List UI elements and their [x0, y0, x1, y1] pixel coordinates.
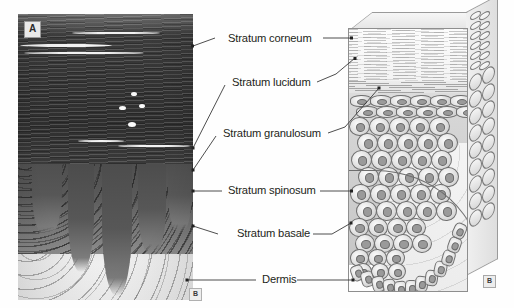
cell-nucleus: [437, 99, 447, 105]
leader-granulosum-left: [193, 136, 216, 170]
cell-nucleus: [356, 123, 366, 132]
block-side-cells: [466, 0, 497, 13]
cell-nucleus: [396, 123, 406, 132]
epidermis-block-diagram: B: [348, 12, 498, 290]
cell-nucleus: [358, 156, 368, 166]
label-dermis: Dermis: [262, 273, 297, 285]
cell-nucleus: [436, 123, 446, 132]
cell-nucleus: [383, 139, 393, 149]
panel-b-label: B: [189, 288, 202, 301]
micrograph-vignette: [18, 14, 193, 300]
cell-nucleus: [377, 99, 387, 105]
cell-nucleus: [443, 110, 453, 116]
layer-stratum-corneum: [349, 29, 467, 85]
block-front-face: [348, 28, 468, 292]
panel-a-label: A: [24, 21, 41, 38]
leader-corneum-left: [193, 38, 215, 46]
cell-nucleus: [423, 139, 433, 149]
cell-nucleus: [445, 173, 455, 183]
label-stratum-corneum: Stratum corneum: [228, 32, 312, 44]
cell-nucleus: [423, 110, 433, 116]
cell-nucleus: [398, 156, 408, 166]
leader-basale-right: [313, 223, 351, 234]
cell-nucleus: [463, 110, 468, 116]
leader-basale-left: [193, 226, 218, 234]
block-side-face: [466, 0, 498, 276]
cell-nucleus: [364, 139, 374, 149]
cell-nucleus: [438, 156, 448, 166]
cell-nucleus: [417, 156, 427, 166]
cell-nucleus: [357, 99, 367, 105]
cell-nucleus: [415, 123, 425, 132]
label-stratum-lucidum: Stratum lucidum: [232, 76, 311, 88]
cell-nucleus: [403, 110, 413, 116]
label-stratum-spinosum: Stratum spinosum: [228, 184, 316, 196]
cell-nucleus: [457, 99, 467, 105]
cell-nucleus: [383, 110, 393, 116]
label-stratum-granulosum: Stratum granulosum: [223, 127, 321, 139]
label-stratum-basale: Stratum basale: [237, 227, 310, 239]
skin-layers-figure: A B: [0, 0, 514, 308]
cell-nucleus: [397, 99, 407, 105]
cell-nucleus: [417, 99, 427, 105]
histology-micrograph: A: [18, 14, 193, 300]
cell-nucleus: [444, 139, 454, 149]
cell-nucleus: [377, 156, 387, 166]
cell-nucleus: [375, 123, 385, 132]
leader-lucidum-left: [193, 85, 225, 148]
keratinocyte-11: [456, 106, 468, 118]
panel-b-label-corner: B: [483, 275, 496, 288]
cell-nucleus: [404, 139, 414, 149]
cell-nucleus: [363, 110, 373, 116]
